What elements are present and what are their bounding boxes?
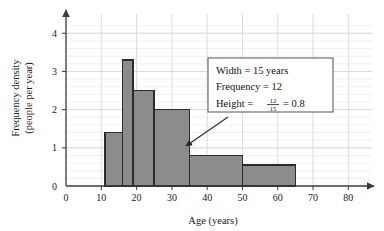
x-tick-label: 20 bbox=[132, 192, 142, 203]
histogram-figure: 01020304050607080 01234 Age (years) Freq… bbox=[0, 0, 384, 231]
callout-line-height-prefix: Height = bbox=[216, 98, 253, 109]
callout-line-height-suffix: = 0.8 bbox=[283, 98, 305, 109]
histogram-bar bbox=[133, 91, 154, 186]
x-tick-label: 0 bbox=[64, 192, 69, 203]
histogram-bar bbox=[105, 133, 123, 186]
histogram-bar bbox=[190, 155, 243, 186]
callout-line-width: Width = 15 years bbox=[216, 65, 288, 76]
x-axis-label: Age (years) bbox=[188, 215, 238, 227]
histogram-bar bbox=[242, 165, 295, 186]
chart-svg: 01020304050607080 01234 Age (years) Freq… bbox=[0, 0, 384, 231]
y-tick-label: 4 bbox=[52, 28, 57, 39]
callout-fraction-denominator: 15 bbox=[270, 105, 277, 112]
x-tick-label: 40 bbox=[202, 192, 212, 203]
histogram-bar bbox=[122, 60, 133, 186]
y-tick-label: 0 bbox=[52, 181, 57, 192]
x-tick-label: 80 bbox=[343, 192, 353, 203]
y-axis-label-line1: Frequency density bbox=[10, 59, 21, 137]
y-tick-label: 1 bbox=[52, 142, 57, 153]
y-axis-label-line2: (people per year) bbox=[23, 62, 35, 134]
callout-box: Width = 15 years Frequency = 12 Height =… bbox=[208, 58, 333, 112]
callout-line-frequency: Frequency = 12 bbox=[216, 81, 282, 92]
y-tick-label: 3 bbox=[52, 66, 57, 77]
histogram-bar bbox=[154, 110, 189, 186]
x-tick-label: 60 bbox=[273, 192, 283, 203]
x-tick-label: 30 bbox=[167, 192, 177, 203]
chart-background bbox=[0, 0, 384, 231]
x-tick-label: 10 bbox=[96, 192, 106, 203]
y-tick-label: 2 bbox=[52, 104, 57, 115]
x-tick-label: 50 bbox=[237, 192, 247, 203]
x-tick-label: 70 bbox=[308, 192, 318, 203]
callout-fraction-numerator: 12 bbox=[270, 97, 277, 104]
